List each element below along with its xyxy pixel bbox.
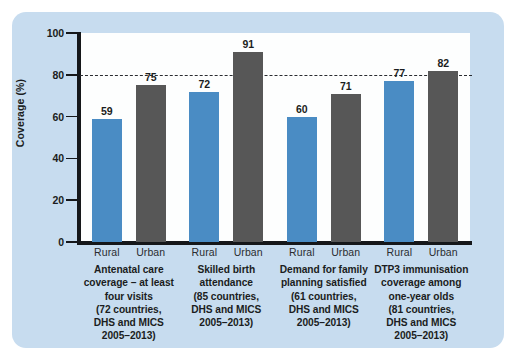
y-axis-tick-label: 100: [18, 27, 64, 39]
group-caption-line: Demand for family: [271, 263, 377, 276]
group-caption-line: DTP3 immunisation: [369, 263, 475, 276]
bar-value-label: 59: [101, 105, 112, 117]
group-caption-line: DHS and MICS: [174, 303, 280, 316]
category-label: Urban: [136, 246, 165, 258]
y-axis-tick: [66, 241, 78, 243]
group-caption-line: Skilled birth: [174, 263, 280, 276]
group-caption-line: DHS and MICS: [369, 316, 475, 329]
category-label: Urban: [234, 246, 263, 258]
category-label: Rural: [94, 246, 120, 258]
y-axis-tick-label-text: 0: [24, 236, 64, 248]
y-axis-tick: [66, 199, 78, 201]
bar: 91: [233, 33, 263, 242]
bar: 60: [287, 33, 317, 242]
category-label: Rural: [387, 246, 413, 258]
bar: 75: [136, 33, 166, 242]
bar-value-label: 71: [340, 80, 351, 92]
bar-value-label: 72: [199, 78, 210, 90]
bar: 72: [189, 33, 219, 242]
y-axis-tick-label-text: 40: [24, 152, 64, 164]
bar-value-label: 77: [394, 67, 405, 79]
group-caption-line: (61 countries,: [271, 290, 377, 303]
group-caption-line: one-year olds: [369, 290, 475, 303]
y-axis-title: Coverage (%): [14, 53, 26, 173]
y-axis-tick: [66, 74, 78, 76]
group-caption-line: four visits: [76, 290, 182, 303]
y-axis-tick-label-text: 60: [24, 111, 64, 123]
bar-rect: [287, 117, 317, 242]
group-captions-layer: Antenatal carecoverage – at leastfour vi…: [80, 263, 472, 353]
group-caption-line: planning satisfied: [271, 276, 377, 289]
group-caption-line: DHS and MICS: [271, 303, 377, 316]
bar-value-label: 75: [145, 71, 156, 83]
group-caption-line: 2005–2013): [76, 329, 182, 342]
bar-rect: [384, 81, 414, 242]
bar: 77: [384, 33, 414, 242]
bars-layer: 5975729160717782: [80, 33, 470, 242]
bar-rect: [189, 92, 219, 242]
y-axis-tick-label-text: 80: [24, 69, 64, 81]
group-caption-line: DHS and MICS: [76, 316, 182, 329]
category-label: Rural: [289, 246, 315, 258]
group-caption-line: 2005–2013): [271, 316, 377, 329]
y-axis-tick-label-text: 20: [24, 194, 64, 206]
category-label: Rural: [192, 246, 218, 258]
group-caption: Antenatal carecoverage – at leastfour vi…: [76, 263, 182, 343]
group-caption-line: (81 countries,: [369, 303, 475, 316]
group-caption: Demand for familyplanning satisfied(61 c…: [271, 263, 377, 329]
category-label: Urban: [429, 246, 458, 258]
group-caption-line: coverage – at least: [76, 276, 182, 289]
bar: 82: [428, 33, 458, 242]
group-caption-line: Antenatal care: [76, 263, 182, 276]
bar-value-label: 91: [242, 38, 253, 50]
group-caption-line: attendance: [174, 276, 280, 289]
group-caption-line: (72 countries,: [76, 303, 182, 316]
category-label: Urban: [331, 246, 360, 258]
bar: 59: [92, 33, 122, 242]
group-caption: DTP3 immunisationcoverage amongone-year …: [369, 263, 475, 343]
group-caption-line: 2005–2013): [369, 329, 475, 342]
group-caption-line: (85 countries,: [174, 290, 280, 303]
group-caption: Skilled birthattendance(85 countries,DHS…: [174, 263, 280, 329]
y-axis-tick-label-text: 100: [24, 27, 64, 39]
chart-figure: 020406080100 Coverage (%) 59757291607177…: [0, 0, 516, 362]
bar-rect: [331, 94, 361, 242]
y-axis-tick: [66, 158, 78, 160]
y-axis-tick: [66, 116, 78, 118]
y-axis-tick-label: 0: [18, 236, 64, 248]
category-labels-layer: RuralUrbanRuralUrbanRuralUrbanRuralUrban: [80, 246, 470, 262]
bar-rect: [92, 119, 122, 242]
group-caption-line: coverage among: [369, 276, 475, 289]
bar-rect: [428, 71, 458, 242]
group-caption-line: 2005–2013): [174, 316, 280, 329]
bar: 71: [331, 33, 361, 242]
y-axis-tick-label: 20: [18, 194, 64, 206]
bar-rect: [233, 52, 263, 242]
bar-value-label: 82: [437, 57, 448, 69]
bar-value-label: 60: [296, 103, 307, 115]
y-axis-tick: [66, 32, 78, 34]
bar-rect: [136, 85, 166, 242]
